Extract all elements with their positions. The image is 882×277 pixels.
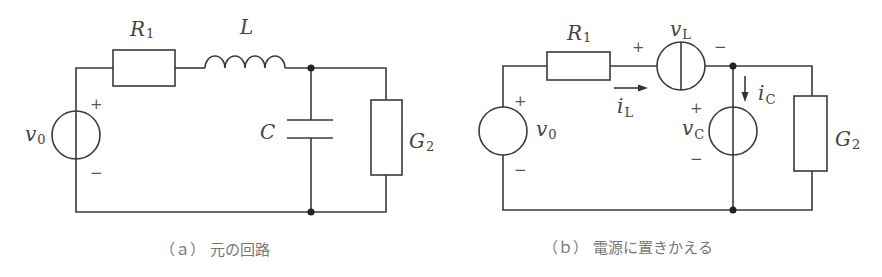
caption-b: （ｂ） 電源に置きかえる xyxy=(543,239,713,257)
node-dot-a-top xyxy=(308,65,315,72)
caption-a: （ａ） 元の回路 xyxy=(160,241,270,259)
label-r1-a: R1 xyxy=(129,17,154,41)
inductor-l-a xyxy=(205,56,285,68)
label-ic: iC xyxy=(758,81,775,107)
voltage-source-v0-b xyxy=(479,107,527,155)
plus-sign-v0-b: + xyxy=(514,92,527,110)
label-il: iL xyxy=(617,94,633,120)
label-v0-b: v0 xyxy=(536,117,557,142)
resistor-r1-a xyxy=(113,50,175,86)
label-r1-b: R1 xyxy=(566,21,591,45)
wire-b-g2-bottom xyxy=(503,155,812,210)
circuit-a: R1 L C G2 v0 + − （ａ） 元の回路 xyxy=(25,15,434,259)
wire-a-l-node xyxy=(285,68,386,100)
node-dot-a-bottom xyxy=(308,209,315,216)
label-v0-a: v0 xyxy=(25,122,46,147)
label-vl: vL xyxy=(670,17,691,42)
conductance-g2-b xyxy=(794,96,827,171)
wire-a-g2-bottom xyxy=(76,159,386,212)
arrow-il-head xyxy=(638,85,648,92)
minus-sign-a: − xyxy=(90,164,103,182)
resistor-r1-b xyxy=(547,52,610,80)
minus-sign-v0-b: − xyxy=(514,161,527,179)
node-dot-b-bottom xyxy=(730,207,737,214)
plus-sign-vl: + xyxy=(632,38,645,56)
label-vc: vC xyxy=(682,116,704,142)
minus-sign-vc: − xyxy=(690,150,703,168)
label-c-a: C xyxy=(260,120,275,144)
plus-sign-a: + xyxy=(90,95,103,113)
circuit-diagrams: R1 L C G2 v0 + − （ａ） 元の回路 xyxy=(0,0,882,277)
label-g2-b: G2 xyxy=(835,127,860,152)
node-dot-b-top xyxy=(730,63,737,70)
conductance-g2-a xyxy=(371,100,402,175)
circuit-b: R1 vL iL vC iC G2 v0 + − + − + − （ｂ） 電源に… xyxy=(479,17,860,257)
label-l-a: L xyxy=(239,15,253,39)
plus-sign-vc: + xyxy=(690,99,703,117)
minus-sign-vl: − xyxy=(714,38,727,56)
label-g2-a: G2 xyxy=(409,129,434,154)
arrow-ic-head xyxy=(742,92,749,102)
